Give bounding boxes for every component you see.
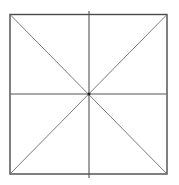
center-point	[88, 93, 91, 96]
diagram-canvas	[0, 0, 179, 185]
